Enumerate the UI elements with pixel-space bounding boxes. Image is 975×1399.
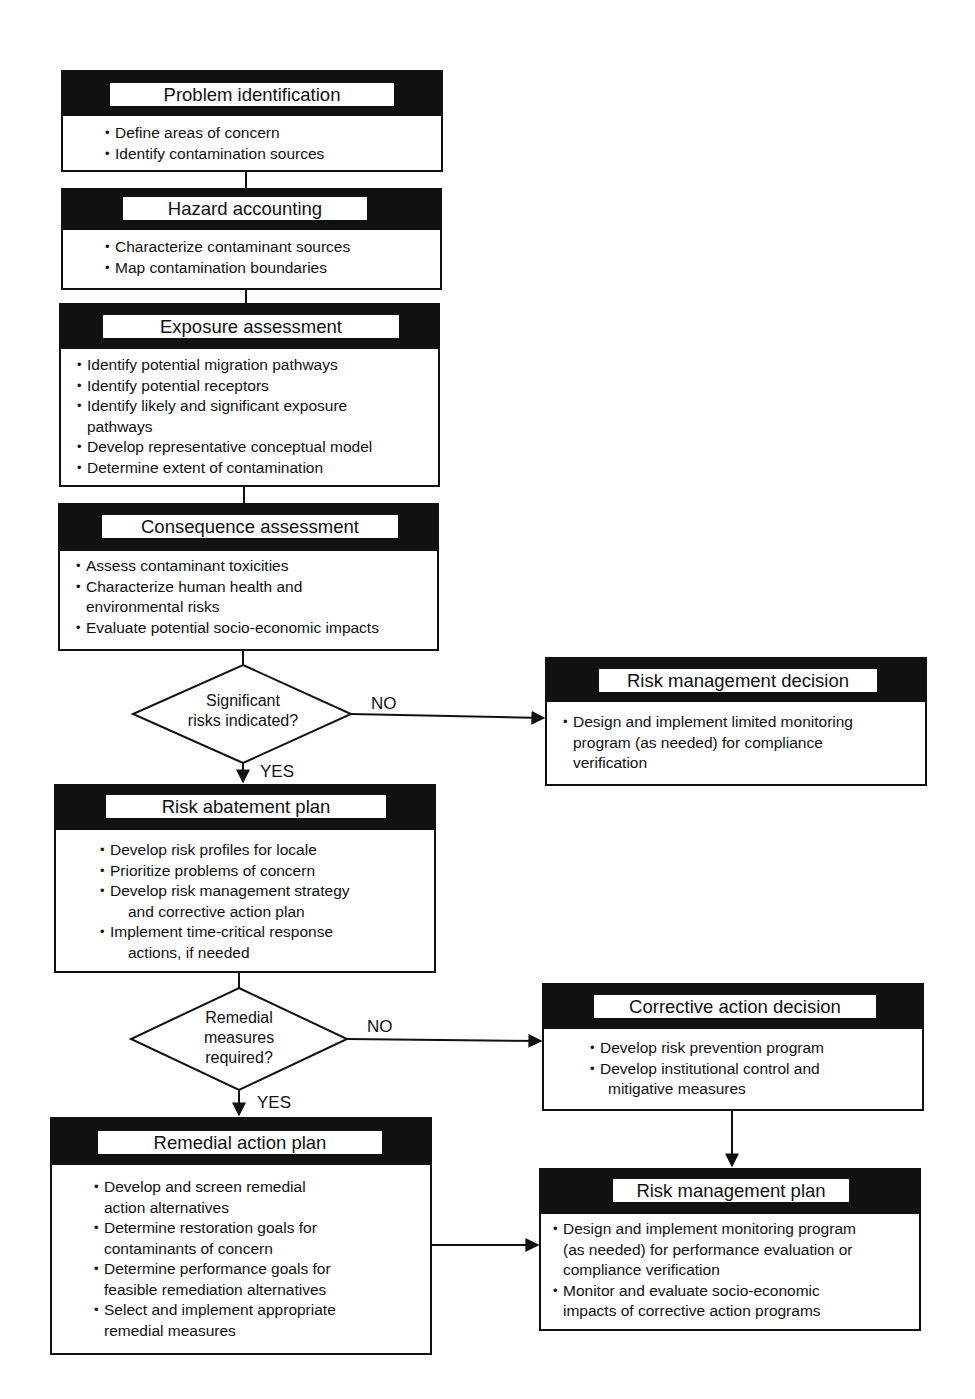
box-body: Develop and screen remedialaction altern…: [52, 1165, 430, 1353]
bullet-line: Determine restoration goals for: [104, 1218, 430, 1239]
bullet-line: Identify likely and significant exposure: [87, 396, 438, 417]
bullet-item: Determine extent of contamination: [77, 458, 438, 479]
arrow-no-to-rm-decision: [351, 714, 544, 718]
box-consequence-assessment: Consequence assessment Assess contaminan…: [58, 503, 439, 651]
box-title: Risk management plan: [613, 1179, 849, 1202]
bullet-line: (as needed) for performance evaluation o…: [563, 1240, 919, 1261]
bullet-item: Map contamination boundaries: [105, 258, 440, 279]
box-hazard-accounting: Hazard accounting Characterize contamina…: [61, 188, 442, 290]
bullet-line: Design and implement limited monitoring: [573, 712, 925, 733]
box-body: Assess contaminant toxicitiesCharacteriz…: [60, 551, 437, 649]
bullet-line: Develop institutional control and: [600, 1059, 922, 1080]
bullet-line: contaminants of concern: [104, 1239, 430, 1260]
bullet-line: mitigative measures: [600, 1079, 922, 1100]
bullet-line: Develop representative conceptual model: [87, 437, 438, 458]
decision-line: Significant: [168, 691, 318, 711]
bullet-line: Assess contaminant toxicities: [86, 556, 437, 577]
box-body: Develop risk prevention programDevelop i…: [544, 1029, 922, 1109]
bullet-line: action alternatives: [104, 1198, 430, 1219]
bullet-list: Develop risk profiles for localePrioriti…: [100, 840, 434, 963]
decision-line: Remedial: [164, 1008, 314, 1028]
box-title: Hazard accounting: [123, 197, 367, 220]
bullet-item: Determine restoration goals forcontamina…: [94, 1218, 430, 1259]
box-corrective-action-decision: Corrective action decision Develop risk …: [542, 983, 924, 1111]
bullet-list: Define areas of concernIdentify contamin…: [105, 123, 441, 164]
box-header: Hazard accounting: [63, 190, 440, 230]
bullet-line: Identify potential receptors: [87, 376, 438, 397]
bullet-line: compliance verification: [563, 1260, 919, 1281]
bullet-list: Assess contaminant toxicitiesCharacteriz…: [76, 556, 437, 638]
bullet-item: Characterize human health andenvironment…: [76, 577, 437, 618]
bullet-item: Develop risk prevention program: [590, 1038, 922, 1059]
bullet-line: verification: [573, 753, 925, 774]
box-body: Identify potential migration pathwaysIde…: [61, 349, 438, 485]
bullet-item: Develop institutional control andmitigat…: [590, 1059, 922, 1100]
label-yes-2: YES: [257, 1093, 291, 1113]
bullet-item: Identify contamination sources: [105, 144, 441, 165]
box-problem-identification: Problem identification Define areas of c…: [61, 70, 443, 172]
bullet-item: Design and implement monitoring program(…: [553, 1219, 919, 1281]
bullet-line: environmental risks: [86, 597, 437, 618]
bullet-line: Select and implement appropriate: [104, 1300, 430, 1321]
box-header: Corrective action decision: [544, 985, 922, 1029]
box-header: Risk abatement plan: [56, 786, 434, 830]
decision-remedial-measures-text: Remedial measures required?: [164, 1008, 314, 1068]
bullet-line: remedial measures: [104, 1321, 430, 1342]
box-title: Remedial action plan: [98, 1131, 382, 1154]
bullet-list: Design and implement limited monitoringp…: [563, 712, 925, 774]
box-header: Risk management decision: [547, 659, 925, 702]
label-no-2: NO: [367, 1017, 393, 1037]
decision-line: risks indicated?: [168, 711, 318, 731]
box-body: Characterize contaminant sourcesMap cont…: [63, 230, 440, 288]
label-no-1: NO: [371, 694, 397, 714]
bullet-line: Develop risk management strategy: [110, 881, 434, 902]
decision-line: measures: [164, 1028, 314, 1048]
bullet-line: Identify potential migration pathways: [87, 355, 438, 376]
box-title: Corrective action decision: [594, 995, 876, 1018]
box-remedial-action-plan: Remedial action plan Develop and screen …: [50, 1117, 432, 1355]
bullet-line: Identify contamination sources: [115, 144, 441, 165]
bullet-item: Prioritize problems of concern: [100, 861, 434, 882]
bullet-line: Determine extent of contamination: [87, 458, 438, 479]
bullet-item: Define areas of concern: [105, 123, 441, 144]
arrow-no-to-corrective: [347, 1039, 541, 1041]
bullet-line: feasible remediation alternatives: [104, 1280, 430, 1301]
box-body: Design and implement limited monitoringp…: [547, 702, 925, 784]
box-title: Exposure assessment: [103, 315, 399, 338]
bullet-line: Develop and screen remedial: [104, 1177, 430, 1198]
decision-significant-risks-text: Significant risks indicated?: [168, 691, 318, 731]
bullet-item: Assess contaminant toxicities: [76, 556, 437, 577]
box-title: Problem identification: [110, 83, 394, 106]
bullet-item: Design and implement limited monitoringp…: [563, 712, 925, 774]
bullet-line: and corrective action plan: [110, 902, 434, 923]
bullet-line: Evaluate potential socio-economic impact…: [86, 618, 437, 639]
bullet-list: Characterize contaminant sourcesMap cont…: [105, 237, 440, 278]
box-title: Risk management decision: [599, 669, 877, 692]
box-header: Remedial action plan: [52, 1119, 430, 1165]
box-risk-management-decision: Risk management decision Design and impl…: [545, 657, 927, 786]
bullet-item: Characterize contaminant sources: [105, 237, 440, 258]
box-title: Consequence assessment: [102, 515, 398, 538]
bullet-item: Evaluate potential socio-economic impact…: [76, 618, 437, 639]
bullet-line: Characterize contaminant sources: [115, 237, 440, 258]
bullet-item: Develop risk profiles for locale: [100, 840, 434, 861]
bullet-list: Identify potential migration pathwaysIde…: [77, 355, 438, 478]
bullet-line: Prioritize problems of concern: [110, 861, 434, 882]
bullet-item: Monitor and evaluate socio-economicimpac…: [553, 1281, 919, 1322]
bullet-item: Select and implement appropriateremedial…: [94, 1300, 430, 1341]
bullet-list: Develop risk prevention programDevelop i…: [590, 1038, 922, 1100]
bullet-line: Develop risk profiles for locale: [110, 840, 434, 861]
bullet-line: impacts of corrective action programs: [563, 1301, 919, 1322]
label-yes-1: YES: [260, 762, 294, 782]
bullet-line: actions, if needed: [110, 943, 434, 964]
decision-line: required?: [164, 1048, 314, 1068]
box-exposure-assessment: Exposure assessment Identify potential m…: [59, 303, 440, 487]
box-body: Develop risk profiles for localePrioriti…: [56, 830, 434, 971]
box-header: Consequence assessment: [60, 505, 437, 551]
bullet-item: Determine performance goals forfeasible …: [94, 1259, 430, 1300]
bullet-list: Develop and screen remedialaction altern…: [94, 1177, 430, 1341]
bullet-item: Implement time-critical responseactions,…: [100, 922, 434, 963]
bullet-line: Implement time-critical response: [110, 922, 434, 943]
bullet-line: Characterize human health and: [86, 577, 437, 598]
box-risk-management-plan: Risk management plan Design and implemen…: [539, 1168, 921, 1331]
